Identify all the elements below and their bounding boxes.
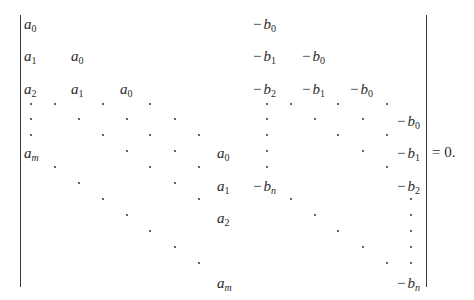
ellipsis-dot [126, 150, 128, 152]
entry-base: a [71, 48, 79, 64]
minus-sign: − [397, 113, 405, 129]
a-entry: am [24, 146, 39, 161]
ellipsis-dot [198, 134, 200, 136]
ellipsis-dot [149, 166, 151, 168]
right-determinant-bar [426, 15, 427, 287]
entry-base: a [24, 48, 32, 64]
entry-subscript: 2 [271, 88, 276, 99]
ellipsis-dot [149, 230, 151, 232]
b-entry: −b1 [253, 49, 276, 64]
ellipsis-dot [174, 246, 176, 248]
entry-base: a [217, 178, 225, 194]
entry-subscript: 1 [225, 185, 230, 196]
ellipsis-dot [337, 230, 339, 232]
entry-subscript: 2 [225, 217, 230, 228]
ellipsis-dot [174, 150, 176, 152]
ellipsis-dot [410, 246, 412, 248]
entry-subscript: 2 [415, 185, 420, 196]
entry-subscript: 0 [368, 88, 373, 99]
entry-subscript: 0 [79, 55, 84, 66]
ellipsis-dot [149, 134, 151, 136]
entry-base: a [71, 81, 79, 97]
entry-subscript: 1 [32, 55, 37, 66]
entry-subscript: 2 [32, 88, 37, 99]
entry-base: a [120, 81, 128, 97]
ellipsis-dot [266, 134, 268, 136]
ellipsis-dot [198, 198, 200, 200]
minus-sign: − [302, 48, 310, 64]
entry-subscript: m [225, 282, 232, 293]
entry-base: b [263, 178, 271, 194]
minus-sign: − [397, 275, 405, 291]
minus-sign: − [253, 178, 261, 194]
ellipsis-dot [78, 182, 80, 184]
entry-base: b [263, 16, 271, 32]
entry-subscript: 0 [225, 152, 230, 163]
ellipsis-dot [266, 150, 268, 152]
minus-sign: − [350, 81, 358, 97]
left-determinant-bar [20, 15, 21, 287]
ellipsis-dot [362, 246, 364, 248]
entry-subscript: 0 [320, 55, 325, 66]
determinant-equation: = 0. a0a1a0a2a1a0ama0a1a2am−b0−b1−b0−b2−… [0, 0, 474, 300]
ellipsis-dot [174, 182, 176, 184]
b-entry: −bn [397, 276, 420, 291]
minus-sign: − [397, 145, 405, 161]
entry-base: a [24, 81, 32, 97]
ellipsis-dot [198, 262, 200, 264]
entry-base: b [263, 81, 271, 97]
entry-base: b [407, 178, 415, 194]
ellipsis-dot [386, 134, 388, 136]
b-entry: −b0 [253, 17, 276, 32]
ellipsis-dot [337, 134, 339, 136]
ellipsis-dot [290, 198, 292, 200]
ellipsis-dot [102, 103, 104, 105]
a-entry: a1 [24, 49, 37, 64]
minus-sign: − [397, 178, 405, 194]
ellipsis-dot [266, 166, 268, 168]
entry-subscript: 1 [271, 55, 276, 66]
minus-sign: − [302, 81, 310, 97]
equals-zero: = 0. [432, 145, 455, 160]
minus-sign: − [253, 16, 261, 32]
ellipsis-dot [149, 103, 151, 105]
a-entry: a2 [217, 211, 230, 226]
ellipsis-dot [30, 103, 32, 105]
ellipsis-dot [126, 118, 128, 120]
minus-sign: − [253, 48, 261, 64]
b-entry: −b2 [253, 82, 276, 97]
entry-base: a [217, 210, 225, 226]
entry-base: b [360, 81, 368, 97]
entry-subscript: n [415, 282, 420, 293]
minus-sign: − [253, 81, 261, 97]
ellipsis-dot [30, 134, 32, 136]
ellipsis-dot [410, 198, 412, 200]
b-entry: −b2 [397, 179, 420, 194]
b-entry: −b0 [350, 82, 373, 97]
ellipsis-dot [386, 103, 388, 105]
ellipsis-dot [410, 262, 412, 264]
ellipsis-dot [126, 214, 128, 216]
entry-base: b [312, 48, 320, 64]
ellipsis-dot [314, 214, 316, 216]
entry-subscript: 1 [415, 152, 420, 163]
entry-base: a [217, 145, 225, 161]
entry-subscript: m [32, 152, 39, 163]
ellipsis-dot [30, 118, 32, 120]
ellipsis-dot [102, 198, 104, 200]
entry-base: a [217, 275, 225, 291]
ellipsis-dot [290, 103, 292, 105]
ellipsis-dot [410, 214, 412, 216]
a-entry: a1 [217, 179, 230, 194]
entry-base: b [407, 113, 415, 129]
ellipsis-dot [410, 230, 412, 232]
ellipsis-dot [102, 134, 104, 136]
ellipsis-dot [362, 150, 364, 152]
a-entry: am [217, 276, 232, 291]
entry-subscript: 1 [320, 88, 325, 99]
a-entry: a1 [71, 82, 84, 97]
ellipsis-dot [386, 166, 388, 168]
ellipsis-dot [198, 166, 200, 168]
b-entry: −b0 [302, 49, 325, 64]
a-entry: a2 [24, 82, 37, 97]
